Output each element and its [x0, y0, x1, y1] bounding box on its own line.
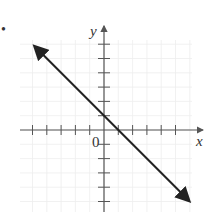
problem-number-marker: •: [1, 22, 6, 37]
line-series: [35, 47, 188, 200]
grid-lines: [20, 40, 192, 212]
graph-line: [35, 47, 188, 200]
y-axis-label: y: [88, 23, 97, 39]
origin-label: 0: [92, 134, 100, 150]
coordinate-plane: • x y 0: [0, 0, 205, 212]
x-axis-label: x: [195, 133, 203, 149]
